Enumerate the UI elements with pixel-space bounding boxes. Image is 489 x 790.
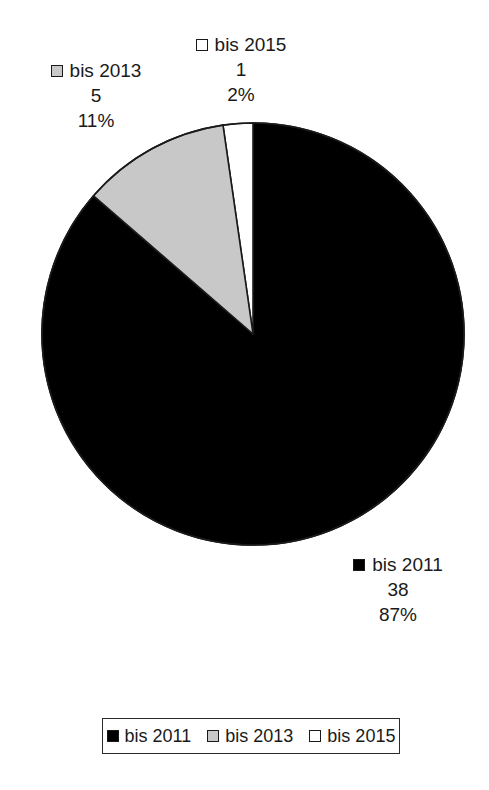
legend-item-bis-2013-label: bis 2013 [225, 727, 293, 745]
black-swatch-icon [353, 559, 365, 571]
data-label-bis-2013-value: 5 [28, 83, 164, 108]
pie-svg [41, 122, 465, 546]
white-swatch-icon [196, 39, 208, 51]
data-label-bis-2015: bis 2015 1 2% [176, 32, 306, 107]
gray-swatch-icon [207, 730, 219, 742]
data-label-bis-2011-percent: 87% [330, 602, 466, 627]
data-label-bis-2011-head: bis 2011 [330, 552, 466, 577]
legend-item-bis-2015-label: bis 2015 [327, 727, 395, 745]
legend-item-bis-2013[interactable]: bis 2013 [207, 727, 293, 745]
legend-item-bis-2011[interactable]: bis 2011 [107, 727, 192, 745]
gray-swatch-icon [51, 65, 63, 77]
data-label-bis-2013-head: bis 2013 [28, 58, 164, 83]
data-label-bis-2015-percent: 2% [176, 82, 306, 107]
chart-legend: bis 2011 bis 2013 bis 2015 [102, 718, 400, 754]
data-label-bis-2015-name: bis 2015 [215, 32, 287, 57]
data-label-bis-2013-name: bis 2013 [70, 58, 142, 83]
black-swatch-icon [107, 730, 119, 742]
data-label-bis-2015-value: 1 [176, 57, 306, 82]
white-swatch-icon [309, 730, 321, 742]
data-label-bis-2015-head: bis 2015 [176, 32, 306, 57]
legend-item-bis-2011-label: bis 2011 [125, 727, 192, 745]
data-label-bis-2011-value: 38 [330, 577, 466, 602]
data-label-bis-2011-name: bis 2011 [372, 552, 442, 577]
pie-chart-figure: bis 2013 5 11% bis 2015 1 2% bis 2011 38… [0, 0, 489, 790]
data-label-bis-2011: bis 2011 38 87% [330, 552, 466, 627]
pie-graphic [41, 122, 465, 546]
legend-item-bis-2015[interactable]: bis 2015 [309, 727, 395, 745]
